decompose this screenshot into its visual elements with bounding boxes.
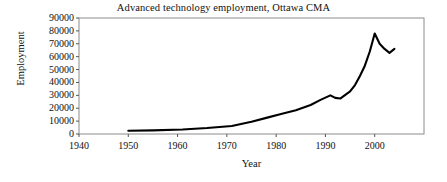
- chart-figure: Advanced technology employment, Ottawa C…: [0, 0, 447, 182]
- plot-area: [0, 0, 447, 182]
- plot-frame: [79, 18, 424, 134]
